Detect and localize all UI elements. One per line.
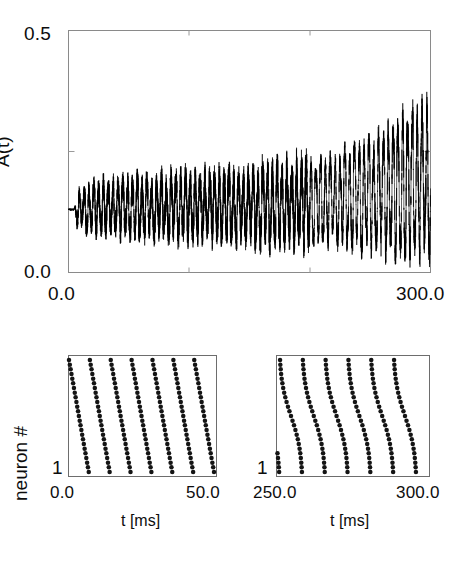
right-raster-ytick-label: 1 (257, 458, 268, 477)
top-plot-frame (69, 31, 431, 273)
top-xtick-max-label: 300.0 (396, 284, 445, 303)
right-raster-dots (275, 358, 418, 475)
top-ytick-min-label: 0.0 (24, 262, 51, 281)
right-raster-axis-title-x: t [ms] (330, 513, 369, 529)
left-raster-frame (69, 356, 217, 477)
activity-trace (69, 92, 431, 268)
left-raster-axis-title-x: t [ms] (121, 513, 160, 529)
right-raster-xtick-min-label: 250.0 (253, 484, 297, 501)
left-raster-dots (67, 358, 217, 475)
right-raster-frame (277, 356, 430, 477)
left-raster-xtick-max-label: 50.0 (186, 484, 220, 501)
top-axis-title-y: A(t) (0, 136, 12, 167)
right-raster-xtick-max-label: 300.0 (396, 484, 440, 501)
figure-canvas: 0.5 0.0 A(t) 0.0 300.0 neuron # 1 0.0 50… (0, 0, 472, 563)
top-panel-plot (0, 0, 472, 563)
right-raster-plot (0, 0, 472, 563)
left-raster-ytick-label: 1 (52, 458, 63, 477)
left-raster-plot (0, 0, 472, 563)
top-ytick-max-label: 0.5 (24, 24, 51, 43)
top-xtick-min-label: 0.0 (48, 284, 75, 303)
left-raster-axis-title-y: neuron # (11, 426, 30, 501)
left-raster-xtick-min-label: 0.0 (50, 484, 74, 501)
